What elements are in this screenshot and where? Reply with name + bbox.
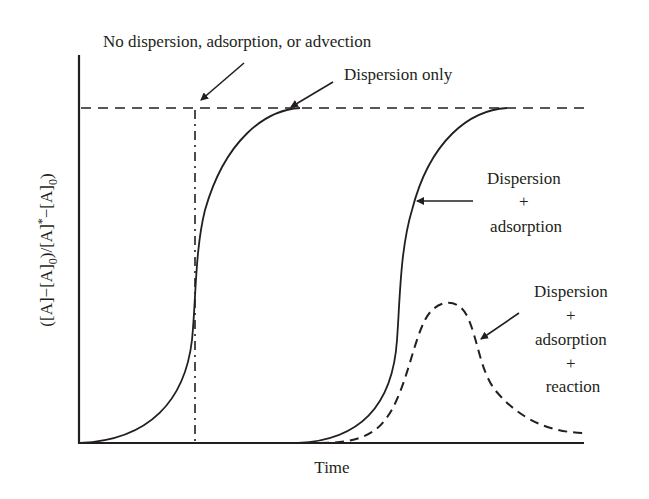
label-dispersion-adsorption: Dispersion + adsorption (487, 169, 565, 236)
label-line: reaction (546, 377, 601, 396)
label-line: adsorption (490, 217, 562, 236)
ylabel-part: )/[A] (37, 224, 56, 258)
y-axis-label: ([A]−[A]0)/[A]*−[A]0) (35, 173, 60, 326)
dispersion-adsorption-curve (298, 108, 507, 443)
diagram: No dispersion, adsorption, or advection … (0, 0, 649, 499)
label-line: Dispersion (534, 282, 608, 301)
arrow-no-dispersion-icon (201, 63, 244, 100)
label-no-dispersion: No dispersion, adsorption, or advection (103, 32, 372, 51)
label-line: Dispersion (487, 169, 561, 188)
label-line: + (519, 192, 529, 211)
ylabel-part: ([A]−[A] (37, 264, 56, 326)
arrow-dispersion-adsorption-reaction-icon (481, 313, 519, 339)
ylabel-part: ) (37, 173, 56, 179)
x-axis-label: Time (314, 458, 349, 477)
label-dispersion-only: Dispersion only (344, 65, 453, 84)
arrow-dispersion-only-icon (291, 82, 333, 107)
dispersion-adsorption-reaction-curve (320, 303, 583, 443)
label-dispersion-adsorption-reaction: Dispersion + adsorption + reaction (534, 282, 612, 396)
label-line: + (566, 354, 576, 373)
label-line: adsorption (535, 330, 607, 349)
dispersion-only-curve (80, 108, 300, 443)
label-line: + (566, 306, 576, 325)
ylabel-part: −[A] (37, 185, 56, 218)
